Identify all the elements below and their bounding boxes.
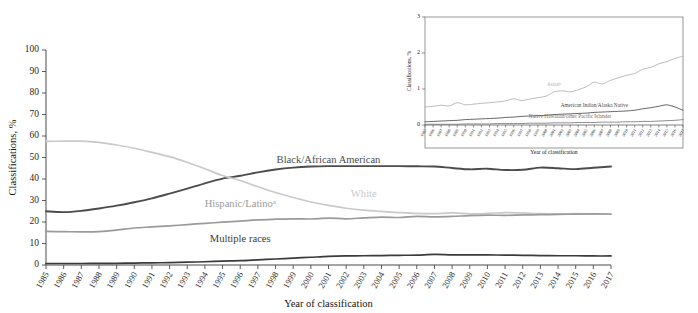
inset-series-label-0: Asianᵇ [547,81,561,87]
inset-chart-group: 0123Classifications, %198519861987198819… [406,12,685,155]
inset-series-label-1: American Indian/Alaska Native [561,102,629,108]
main-x-tick-label: 2013 [528,270,545,290]
inset-y-tick-label: 3 [417,12,420,19]
main-y-tick-label: 30 [30,195,40,205]
inset-y-tick-label: 1 [417,84,420,91]
main-x-tick-label: 1999 [281,270,298,290]
main-y-tick-label: 60 [30,130,40,140]
main-x-tick-label: 1986 [51,269,69,289]
main-x-tick-label: 1990 [122,270,139,290]
main-x-axis-title: Year of classification [284,298,373,309]
main-x-tick-label: 2006 [404,269,422,289]
main-x-tick-label: 2014 [546,269,564,289]
inset-y-tick-label: 2 [417,48,420,55]
main-y-tick-label: 50 [30,152,40,162]
inset-x-axis-title: Year of classification [530,149,577,155]
main-x-tick-label: 2000 [299,270,316,290]
main-series-label-1: White [351,188,377,199]
main-series-label-3: Multiple races [210,233,271,244]
main-x-tick-label: 2005 [387,270,404,290]
main-x-tick-label: 1989 [104,270,121,290]
main-x-tick-label: 2017 [599,269,617,289]
main-y-axis-title: Classifications, % [7,119,18,195]
main-x-tick-label: 2004 [369,269,387,289]
main-x-tick-label: 2007 [422,269,440,289]
inset-y-axis-title: Classifications, % [406,50,412,91]
main-x-tick-label: 1987 [69,269,87,289]
main-x-tick-label: 2009 [457,270,474,290]
main-x-tick-label: 1998 [263,270,280,290]
main-x-tick-label: 2011 [493,270,510,290]
main-y-tick-label: 0 [34,259,39,269]
main-x-tick-label: 1997 [246,269,264,289]
main-x-tick-label: 1991 [140,270,157,290]
main-x-tick-label: 2015 [563,270,580,290]
main-series-label-2: Hispanic/Latinoᵃ [205,198,276,209]
main-x-tick-label: 1996 [228,269,246,289]
figure-canvas: 0102030405060708090100Classifications, %… [0,0,698,313]
main-series-line-2 [46,214,611,232]
inset-series-label-2: Native Hawaiian/other Pacific Islander [529,113,612,119]
main-x-tick-label: 1985 [34,270,51,290]
main-x-tick-label: 2001 [316,270,333,290]
main-x-tick-label: 1993 [175,270,192,290]
main-y-tick-label: 20 [30,216,40,226]
main-y-tick-label: 90 [30,66,40,76]
inset-y-tick-label: 0 [417,120,420,127]
main-y-tick-label: 80 [30,87,40,97]
main-series-line-3 [46,254,611,263]
main-x-tick-label: 2008 [440,270,457,290]
main-y-tick-label: 100 [25,44,40,54]
main-y-tick-label: 70 [30,109,40,119]
main-x-tick-label: 1994 [193,269,211,289]
main-x-tick-label: 2003 [351,270,368,290]
main-y-tick-label: 40 [30,173,40,183]
main-x-tick-label: 1995 [210,270,227,290]
main-x-tick-label: 1992 [157,270,174,290]
chart-figure: 0102030405060708090100Classifications, %… [0,0,698,313]
main-x-tick-label: 2016 [581,269,599,289]
main-series-label-0: Black/African American [277,154,382,165]
main-x-tick-label: 2012 [510,270,527,290]
main-x-tick-label: 1988 [87,270,104,290]
main-x-tick-label: 2010 [475,270,492,290]
main-x-tick-label: 2002 [334,270,351,290]
main-y-tick-label: 10 [30,238,40,248]
